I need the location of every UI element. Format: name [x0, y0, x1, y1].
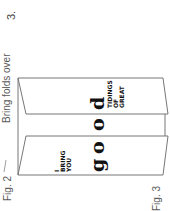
- center-letter-d: d: [86, 97, 108, 110]
- fig2-bracket-line: [4, 160, 6, 172]
- instruction-caption: Bring folds over: [1, 54, 12, 123]
- panel-text-line: GREAT: [119, 80, 125, 108]
- instruction-caption-text: Bring folds over: [1, 54, 12, 123]
- letter: g: [86, 159, 108, 172]
- panel-text-line: YOU: [66, 151, 72, 172]
- document-figure: 3. Bring folds over Fig. 2 Fig. 3 I BRIN…: [0, 0, 170, 211]
- fig3-label-text: Fig. 3: [151, 186, 162, 211]
- center-letter-o1: o: [86, 141, 108, 154]
- panel-text-tidings-of-great: TIDINGS OF GREAT: [107, 80, 125, 108]
- letter: o: [86, 118, 108, 131]
- letter: o: [86, 141, 108, 154]
- letter: d: [86, 97, 108, 110]
- center-letter-g: g: [86, 159, 108, 172]
- card-fold-drawing: [0, 0, 170, 211]
- center-letter-o2: o: [86, 118, 108, 131]
- fig2-label: Fig. 2: [2, 176, 13, 201]
- panel-text-i-bring-you: I BRING YOU: [54, 151, 72, 172]
- step-number-text: 3.: [5, 11, 17, 20]
- fig3-label: Fig. 3: [151, 186, 162, 211]
- step-number: 3.: [5, 11, 17, 20]
- fig2-label-text: Fig. 2: [2, 176, 13, 201]
